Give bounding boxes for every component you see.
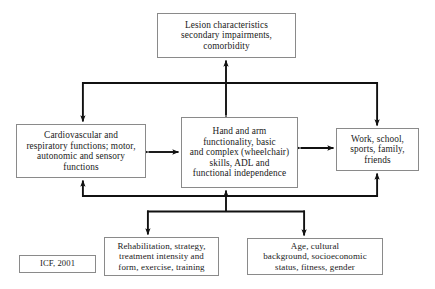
- node-participation[interactable]: Work, school, sports, family, friends: [336, 128, 419, 171]
- node-hand-arm-functionality-label: Hand and arm functionality, basic and co…: [184, 126, 295, 179]
- citation-icf-label: ICF, 2001: [22, 259, 93, 269]
- node-body-functions-label: Cardiovascular and respiratory functions…: [19, 130, 143, 172]
- node-rehabilitation-factors[interactable]: Rehabilitation, strategy, treatment inte…: [104, 237, 219, 276]
- node-personal-factors[interactable]: Age, cultural background, socioeconomic …: [247, 238, 383, 275]
- node-personal-factors-label: Age, cultural background, socioeconomic …: [250, 241, 380, 271]
- node-body-functions[interactable]: Cardiovascular and respiratory functions…: [16, 124, 146, 178]
- diagram-canvas: Lesion characteristics secondary impairm…: [0, 0, 435, 289]
- citation-icf: ICF, 2001: [19, 255, 96, 273]
- node-lesion-characteristics[interactable]: Lesion characteristics secondary impairm…: [157, 13, 296, 58]
- node-rehabilitation-factors-label: Rehabilitation, strategy, treatment inte…: [107, 241, 216, 271]
- node-lesion-characteristics-label: Lesion characteristics secondary impairm…: [160, 20, 293, 52]
- node-participation-label: Work, school, sports, family, friends: [339, 134, 416, 166]
- node-hand-arm-functionality[interactable]: Hand and arm functionality, basic and co…: [181, 117, 298, 188]
